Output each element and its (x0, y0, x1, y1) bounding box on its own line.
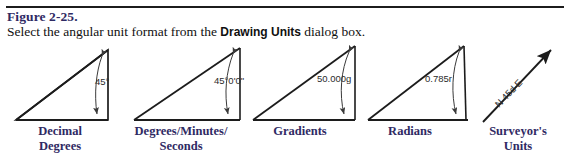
angle-leader-radians (453, 52, 459, 114)
angle-value-radians: 0.785r (425, 73, 452, 84)
angle-value-dms: 45°0'0" (214, 75, 244, 86)
diagram-item-degrees-minutes-seconds: 45°0'0" (134, 48, 244, 120)
diagram-item-decimal-degrees: 45° (16, 50, 110, 120)
diagram-item-surveyors-units: N 45d E (483, 50, 551, 122)
angle-value-decimal-degrees: 45° (95, 76, 110, 87)
unit-label-decimal-degrees: Decimal Degrees (8, 124, 112, 153)
unit-label-degrees-minutes-seconds: Degrees/Minutes/ Seconds (118, 124, 244, 153)
vertical-leg-radians (464, 46, 466, 120)
angle-value-surveyors-units: N 45d E (493, 77, 525, 109)
caption-text-before: Select the angular unit format from the (7, 24, 220, 39)
figure-caption: Select the angular unit format from the … (7, 24, 365, 40)
caption-dialog-name: Drawing Units (220, 25, 301, 39)
unit-label-gradients: Gradients (248, 124, 352, 139)
figure-number: Figure 2-25. (7, 9, 78, 25)
angle-value-gradients: 50.000g (317, 73, 351, 84)
unit-label-radians: Radians (360, 124, 460, 139)
figure-page: Figure 2-25. Select the angular unit for… (0, 0, 570, 167)
diagram-item-radians: 0.785r (368, 46, 468, 120)
header-divider (6, 6, 564, 8)
angular-units-diagram: 45° 45°0'0" 50.000g 0.785r (0, 42, 570, 128)
diagram-item-gradients: 50.000g (253, 46, 355, 120)
caption-text-after: dialog box. (301, 24, 365, 39)
unit-label-surveyors-units: Surveyor's Units (470, 124, 566, 153)
